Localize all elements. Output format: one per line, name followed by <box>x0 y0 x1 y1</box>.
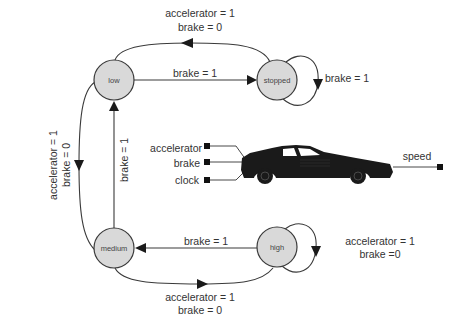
edge-label: brake =0 <box>359 248 400 260</box>
arrowhead-icon <box>181 38 193 48</box>
arrowhead-icon <box>197 279 208 289</box>
state-node-low[interactable]: low <box>94 60 134 100</box>
edge-label: brake = 1 <box>173 67 217 79</box>
edge-label: accelerator = 1 <box>165 291 235 303</box>
port-square-icon <box>437 164 443 170</box>
edge-medium-to-low: brake = 1 <box>109 101 130 228</box>
arrowhead-icon <box>74 160 84 171</box>
state-label: low <box>108 76 120 85</box>
port-label: brake <box>174 157 200 169</box>
edge-label: brake = 1 <box>184 235 228 247</box>
arrowhead-icon <box>311 246 321 257</box>
edge-low-to-medium: accelerator = 1 brake = 0 <box>47 82 95 250</box>
edge-label: brake = 0 <box>60 143 72 187</box>
arrowhead-icon <box>247 75 257 85</box>
edge-line <box>79 82 95 250</box>
edge-label: accelerator = 1 <box>165 7 235 19</box>
arrowhead-icon <box>109 101 119 111</box>
state-node-high[interactable]: high <box>257 227 297 267</box>
port-square-icon <box>204 159 210 165</box>
state-node-stopped[interactable]: stopped <box>257 60 297 100</box>
port-label: accelerator <box>150 142 202 154</box>
edge-label: brake = 0 <box>178 21 222 33</box>
car-block: accelerator brake clock speed <box>150 142 443 186</box>
edge-label: brake = 0 <box>178 304 222 316</box>
arrowhead-icon <box>313 79 323 90</box>
port-square-icon <box>204 143 210 149</box>
edge-label: brake = 1 <box>118 138 130 182</box>
input-port-brake[interactable]: brake <box>174 157 242 169</box>
port-square-icon <box>204 177 210 183</box>
state-label: high <box>270 243 284 252</box>
car-icon <box>241 145 393 184</box>
port-wire <box>210 172 244 180</box>
state-label: medium <box>101 244 128 253</box>
state-label: stopped <box>264 76 291 85</box>
edge-high-to-medium: brake = 1 <box>135 235 257 253</box>
port-wire <box>210 146 246 160</box>
edge-label: accelerator = 1 <box>47 130 59 200</box>
edge-stopped-to-low: accelerator = 1 brake = 0 <box>115 7 270 62</box>
edge-line <box>115 268 273 284</box>
port-label: clock <box>175 174 200 186</box>
output-port-speed[interactable]: speed <box>393 150 443 170</box>
port-label: speed <box>403 150 432 162</box>
state-node-medium[interactable]: medium <box>94 228 134 268</box>
arrowhead-icon <box>135 243 146 253</box>
edge-medium-to-high: accelerator = 1 brake = 0 <box>115 268 273 316</box>
edge-low-to-stopped: brake = 1 <box>133 67 257 85</box>
state-diagram: accelerator = 1 brake = 0 brake = 1 brak… <box>0 0 458 327</box>
edge-label: accelerator = 1 <box>345 235 415 247</box>
input-port-clock[interactable]: clock <box>175 172 244 186</box>
edge-label: brake = 1 <box>325 72 369 84</box>
edge-high-self-loop: accelerator = 1 brake =0 <box>282 224 415 272</box>
